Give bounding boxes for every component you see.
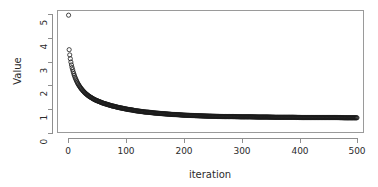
scatter-series-value — [57, 10, 364, 133]
y-tick-label-1: 1 — [40, 110, 49, 126]
x-tick-0 — [68, 138, 69, 143]
x-tick-100 — [126, 138, 127, 143]
x-tick-label-300: 300 — [222, 147, 262, 156]
y-tick-1 — [48, 109, 53, 110]
y-axis-line — [52, 14, 53, 134]
chart-container: 0 1 2 3 4 5 0 100 200 300 400 500 Value … — [0, 0, 378, 187]
y-tick-5 — [48, 14, 53, 15]
y-tick-label-4: 4 — [40, 39, 49, 55]
y-axis-title: Value — [13, 46, 23, 96]
x-tick-label-0: 0 — [48, 147, 88, 156]
y-tick-label-3: 3 — [40, 63, 49, 79]
y-tick-3 — [48, 62, 53, 63]
x-tick-200 — [184, 138, 185, 143]
x-tick-label-400: 400 — [280, 147, 320, 156]
x-axis-title: iteration — [175, 170, 245, 180]
y-tick-label-5: 5 — [40, 15, 49, 31]
data-points-layer — [57, 10, 364, 133]
y-tick-4 — [48, 38, 53, 39]
y-tick-label-2: 2 — [40, 86, 49, 102]
x-tick-300 — [242, 138, 243, 143]
y-tick-2 — [48, 85, 53, 86]
x-axis-line — [68, 138, 358, 139]
x-tick-label-100: 100 — [106, 147, 146, 156]
x-tick-label-500: 500 — [337, 147, 377, 156]
x-tick-label-200: 200 — [164, 147, 204, 156]
y-tick-0 — [48, 133, 53, 134]
x-tick-400 — [300, 138, 301, 143]
x-tick-500 — [357, 138, 358, 143]
